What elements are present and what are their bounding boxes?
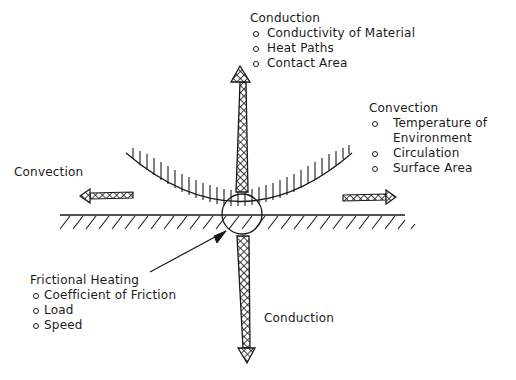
contact-zone-circle bbox=[222, 194, 262, 234]
convection-right-label: Convection Temperature of Environment Ci… bbox=[369, 101, 487, 176]
conduction-bottom-title: Conduction bbox=[264, 311, 334, 326]
conduction-top-label: Conduction Conductivity of Material Heat… bbox=[250, 11, 415, 71]
conduction-top-title: Conduction bbox=[250, 11, 415, 26]
conduction-down-arrow bbox=[237, 236, 255, 363]
conduction-up-arrow bbox=[231, 66, 250, 192]
convection-right-item-continued: Environment bbox=[369, 131, 487, 146]
convection-right-item: Surface Area bbox=[369, 161, 487, 176]
conduction-bottom-label: Conduction bbox=[264, 311, 334, 326]
convection-right-title: Convection bbox=[369, 101, 487, 116]
frictional-heating-label: Frictional Heating Coefficient of Fricti… bbox=[30, 273, 176, 333]
convection-left-title: Convection bbox=[14, 165, 83, 180]
convection-right-item: Circulation bbox=[369, 146, 487, 161]
frictional-heating-title: Frictional Heating bbox=[30, 273, 176, 288]
convection-right-arrow bbox=[343, 190, 396, 204]
frictional-heating-item: Coefficient of Friction bbox=[30, 288, 176, 303]
convection-left-label: Convection bbox=[14, 165, 83, 180]
frictional-heating-pointer bbox=[150, 231, 226, 272]
conduction-top-item: Conductivity of Material bbox=[250, 26, 415, 41]
frictional-heating-item: Speed bbox=[30, 318, 176, 333]
convection-left-arrow bbox=[80, 189, 133, 203]
lower-flat-surface bbox=[60, 215, 415, 229]
frictional-heating-item: Load bbox=[30, 303, 176, 318]
conduction-top-item: Contact Area bbox=[250, 56, 415, 71]
convection-right-item: Temperature of bbox=[369, 116, 487, 131]
conduction-top-item: Heat Paths bbox=[250, 41, 415, 56]
